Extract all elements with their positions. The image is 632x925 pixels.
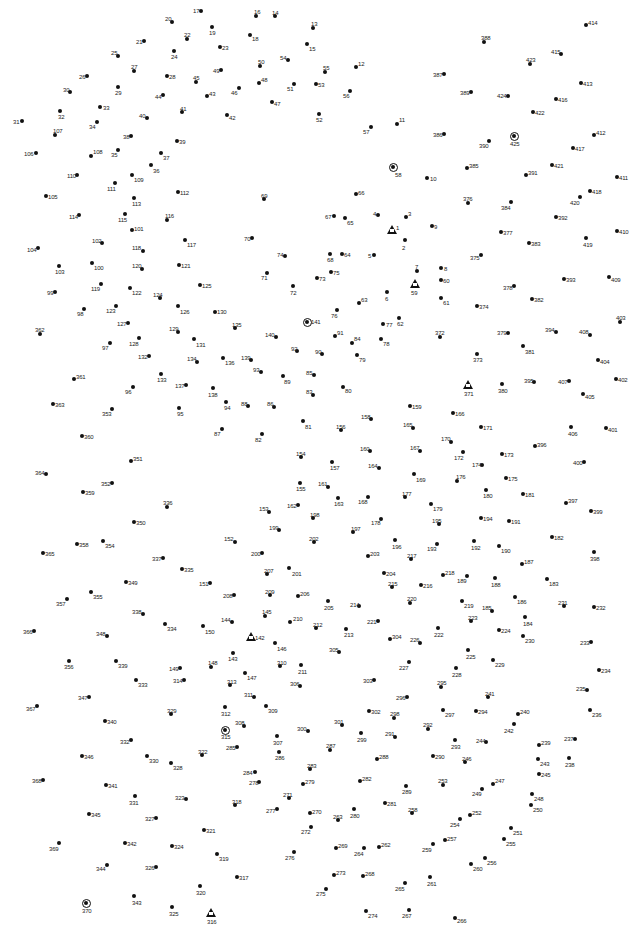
dot-number-label: 69 [261,193,267,199]
dot-number-label: 250 [533,807,542,813]
dot-number-label: 223 [468,615,477,621]
dot-number-label: 39 [179,139,185,145]
dot-number-label: 102 [92,238,101,244]
dot-number-label: 174 [472,462,481,468]
dot-number-label: 103 [55,269,64,275]
dot-number-label: 337 [152,556,161,562]
dot-number-label: 55 [323,65,329,71]
dot-number-label: 193 [427,546,436,552]
dot-number-label: 397 [568,498,577,504]
dot-number-label: 364 [35,470,44,476]
dot-number-label: 361 [76,374,85,380]
dot-number-label: 125 [202,283,211,289]
dot-number-label: 16 [254,9,260,15]
dot-point [385,290,389,294]
dot-point [105,634,109,638]
dot-point [403,238,407,242]
dot-number-label: 92 [291,346,297,352]
dot-number-label: 309 [268,708,277,714]
dot-point [161,556,165,560]
dot-number-label: 67 [325,214,331,220]
dot-point [592,550,596,554]
dot-number-label: 148 [208,660,217,666]
dot-number-label: 6 [385,296,388,302]
dot-point [461,450,465,454]
dot-number-label: 88 [241,401,247,407]
dot-point [273,641,277,645]
dot-number-label: 278 [249,780,258,786]
dot-number-label: 389 [460,90,469,96]
dot-point [296,503,300,507]
dot-number-label: 315 [221,734,230,740]
dot-point [479,253,483,257]
end-circle-icon [82,899,91,908]
dot-point [428,875,432,879]
dot-number-label: 60 [443,278,449,284]
dot-point [466,648,470,652]
dot-number-label: 96 [125,389,131,395]
dot-number-label: 365 [45,551,54,557]
dot-point [407,660,411,664]
dot-point [287,566,291,570]
dot-point [277,750,281,754]
dot-number-label: 413 [583,81,592,87]
dot-point [484,488,488,492]
dot-number-label: 164 [368,463,377,469]
dot-number-label: 173 [504,452,513,458]
dot-number-label: 216 [423,583,432,589]
dot-point [301,419,305,423]
dot-number-label: 126 [180,309,189,315]
dot-number-label: 158 [361,414,370,420]
dot-point [172,49,176,53]
dot-number-label: 329 [167,708,176,714]
dot-number-label: 257 [447,836,456,842]
dot-point [493,576,497,580]
dot-number-label: 286 [275,755,284,761]
dot-number-label: 105 [48,194,57,200]
dot-number-label: 385 [469,163,478,169]
end-circle-icon [389,163,398,172]
dot-number-label: 219 [464,603,473,609]
dot-number-label: 121 [181,263,190,269]
dot-point [405,695,409,699]
dot-number-label: 138 [208,392,217,398]
dot-point [506,331,510,335]
dot-number-label: 335 [184,567,193,573]
dot-number-label: 76 [331,313,337,319]
dot-number-label: 360 [84,434,93,440]
dot-number-label: 390 [479,143,488,149]
dot-point [506,94,510,98]
dot-number-label: 186 [517,599,526,605]
dot-number-label: 163 [334,501,343,507]
dot-number-label: 303 [363,678,372,684]
dot-number-label: 330 [149,758,158,764]
dot-number-label: 320 [196,890,205,896]
dot-number-label: 159 [412,404,421,410]
dot-number-label: 391 [528,170,537,176]
dot-number-label: 49 [213,68,219,74]
dot-point [442,132,446,136]
dot-number-label: 409 [611,277,620,283]
dot-point [330,460,334,464]
dot-number-label: 404 [600,359,609,365]
dot-number-label: 399 [593,509,602,515]
dot-number-label: 280 [350,813,359,819]
dot-number-label: 21 [136,39,142,45]
dot-point [232,593,236,597]
dot-number-label: 304 [392,634,401,640]
dot-point [113,181,117,185]
dot-point [326,599,330,603]
dot-number-label: 2 [402,245,405,251]
dot-point [210,25,214,29]
dot-point [393,538,397,542]
dot-number-label: 368 [32,778,41,784]
dot-point [412,472,416,476]
dot-number-label: 243 [540,761,549,767]
dot-number-label: 245 [541,772,550,778]
dot-point [573,737,577,741]
dot-number-label: 241 [485,691,494,697]
dot-number-label: 407 [558,379,567,385]
dot-number-label: 19 [209,30,215,36]
dot-number-label: 375 [470,255,479,261]
dot-number-label: 4 [373,211,376,217]
